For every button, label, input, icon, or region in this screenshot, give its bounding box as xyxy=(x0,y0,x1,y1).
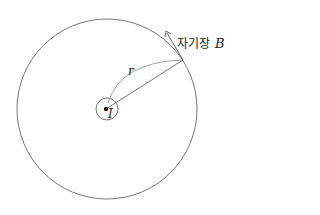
radius-arc xyxy=(108,60,183,103)
field-korean-label: 자기장 xyxy=(177,37,210,51)
field-symbol-label: B xyxy=(215,36,225,51)
radius-label: r xyxy=(128,64,134,78)
current-label: I xyxy=(108,107,113,121)
field-label: 자기장 B xyxy=(177,33,225,52)
